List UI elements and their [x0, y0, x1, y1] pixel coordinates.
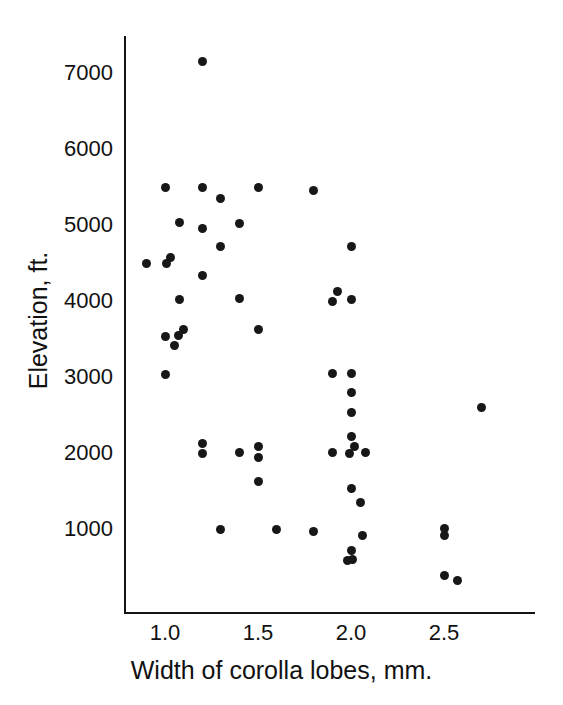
data-point — [272, 525, 281, 534]
x-axis-title: Width of corolla lobes, mm. — [0, 656, 563, 685]
data-point — [198, 57, 207, 66]
y-tick-label: 7000 — [64, 62, 113, 84]
data-point — [235, 294, 244, 303]
data-point — [175, 295, 184, 304]
data-point — [170, 341, 179, 350]
data-point — [477, 403, 486, 412]
data-point — [175, 218, 184, 227]
y-tick-label: 6000 — [64, 138, 113, 160]
data-point — [254, 477, 263, 486]
data-point — [361, 448, 370, 457]
data-point — [254, 453, 263, 462]
data-point — [347, 388, 356, 397]
data-point — [328, 369, 337, 378]
data-point — [343, 556, 352, 565]
y-axis-tick-labels: 1000200030004000500060007000 — [0, 0, 113, 705]
data-point — [328, 448, 337, 457]
data-point — [216, 525, 225, 534]
data-point — [453, 576, 462, 585]
y-tick-label: 3000 — [64, 366, 113, 388]
data-point — [142, 259, 151, 268]
data-point — [309, 527, 318, 536]
data-point — [216, 242, 225, 251]
data-point — [309, 186, 318, 195]
data-point — [254, 442, 263, 451]
y-tick-label: 5000 — [64, 214, 113, 236]
x-tick-label: 2.0 — [336, 622, 367, 644]
x-tick-label: 1.5 — [243, 622, 274, 644]
data-point — [347, 369, 356, 378]
data-point — [216, 194, 225, 203]
data-point — [333, 287, 342, 296]
data-point — [166, 253, 175, 262]
data-point — [161, 370, 170, 379]
y-tick-label: 2000 — [64, 442, 113, 464]
data-point — [198, 224, 207, 233]
plot-data-area — [125, 36, 535, 613]
y-tick-label: 1000 — [64, 518, 113, 540]
data-point — [345, 449, 354, 458]
data-point — [356, 498, 365, 507]
data-point — [347, 408, 356, 417]
data-point — [347, 295, 356, 304]
data-point — [347, 546, 356, 555]
y-tick-label: 4000 — [64, 290, 113, 312]
data-point — [440, 531, 449, 540]
scatter-plot-figure: 1000200030004000500060007000 Elevation, … — [0, 0, 563, 705]
data-point — [254, 183, 263, 192]
data-point — [235, 448, 244, 457]
data-point — [328, 297, 337, 306]
data-point — [161, 183, 170, 192]
x-tick-label: 2.5 — [429, 622, 460, 644]
data-point — [198, 439, 207, 448]
data-point — [235, 219, 244, 228]
data-point — [198, 183, 207, 192]
data-point — [347, 432, 356, 441]
y-axis-title: Elevation, ft. — [24, 191, 53, 451]
data-point — [174, 331, 183, 340]
data-point — [347, 242, 356, 251]
data-point — [358, 531, 367, 540]
data-point — [198, 449, 207, 458]
x-tick-label: 1.0 — [150, 622, 181, 644]
data-point — [161, 332, 170, 341]
data-point — [440, 571, 449, 580]
data-point — [198, 271, 207, 280]
data-point — [347, 484, 356, 493]
data-point — [254, 325, 263, 334]
